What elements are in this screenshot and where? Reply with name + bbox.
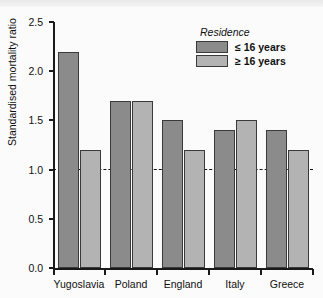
bar-england-ge16[interactable] — [184, 150, 205, 268]
x-tick — [208, 269, 210, 275]
y-axis-title: Standardised mortality ratio — [6, 18, 18, 146]
y-tick-label: 2.5 — [28, 16, 43, 28]
x-tick — [53, 269, 55, 275]
legend-swatch-ge16 — [196, 55, 228, 67]
legend-title: Residence — [200, 26, 308, 38]
legend-swatch-le16 — [196, 41, 228, 53]
y-axis-line — [53, 22, 55, 270]
legend-label-ge16: ≥ 16 years — [235, 55, 286, 67]
legend-entry-le16[interactable]: ≤ 16 years — [196, 41, 308, 53]
bar-yugoslavia-le16[interactable] — [58, 52, 79, 268]
bar-yugoslavia-ge16[interactable] — [80, 150, 101, 268]
y-tick-1.5: 1.5 — [49, 119, 54, 121]
x-axis-line — [53, 268, 313, 270]
legend: Residence ≤ 16 years≥ 16 years — [196, 26, 308, 69]
y-tick-2.0: 2.0 — [49, 70, 54, 72]
x-tick — [312, 269, 314, 275]
x-axis-label-england: England — [164, 278, 203, 290]
legend-entry-ge16[interactable]: ≥ 16 years — [196, 55, 308, 67]
y-tick-0.5: 0.5 — [49, 218, 54, 220]
y-tick-label: 2.0 — [28, 65, 43, 77]
y-tick-label: 0.5 — [28, 213, 43, 225]
bar-poland-le16[interactable] — [110, 101, 131, 268]
x-axis-label-yugoslavia: Yugoslavia — [54, 278, 105, 290]
y-tick-label: 1.5 — [28, 114, 43, 126]
x-tick — [104, 269, 106, 275]
y-tick-label: 0.0 — [28, 262, 43, 274]
x-tick — [260, 269, 262, 275]
bar-italy-ge16[interactable] — [236, 120, 257, 268]
page-banner-strip — [0, 0, 323, 7]
x-axis-label-poland: Poland — [115, 278, 148, 290]
legend-label-le16: ≤ 16 years — [235, 41, 286, 53]
legend-entries: ≤ 16 years≥ 16 years — [196, 41, 308, 67]
bar-italy-le16[interactable] — [214, 130, 235, 268]
bar-poland-ge16[interactable] — [132, 101, 153, 268]
y-tick-label: 1.0 — [28, 164, 43, 176]
x-axis-label-greece: Greece — [270, 278, 304, 290]
y-tick-2.5: 2.5 — [49, 21, 54, 23]
bar-greece-le16[interactable] — [266, 130, 287, 268]
bar-greece-ge16[interactable] — [288, 150, 309, 268]
x-tick — [156, 269, 158, 275]
x-axis-label-italy: Italy — [225, 278, 244, 290]
bar-england-le16[interactable] — [162, 120, 183, 268]
figure-container: Standardised mortality ratio 0.00.51.01.… — [0, 0, 323, 298]
